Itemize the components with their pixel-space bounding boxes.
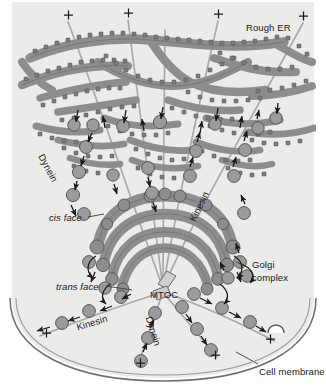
label-cis-face: cis face [49, 212, 82, 223]
label-cell-membrane: Cell membrane [259, 366, 325, 377]
vesicle [87, 119, 99, 131]
label-golgi-line1: Golgi [252, 259, 275, 270]
vesicle [72, 165, 85, 178]
vesicle [238, 207, 251, 220]
vesicle [216, 302, 229, 315]
vesicle [80, 141, 93, 154]
vesicle [56, 317, 69, 330]
vesicle [244, 316, 257, 329]
vesicle [228, 170, 241, 183]
vesicle [68, 119, 80, 131]
label-rough-er: Rough ER [246, 22, 291, 33]
vesicle [142, 162, 155, 175]
label-golgi-line2: complex [252, 272, 288, 283]
vesicle [270, 112, 282, 124]
diagram-canvas [0, 0, 326, 390]
vesicle [107, 169, 119, 181]
vesicle [188, 288, 201, 301]
vesicle [117, 120, 130, 133]
cell-transport-diagram: Rough ER Dynein Kinesin cis face trans f… [0, 0, 326, 390]
vesicle [146, 187, 159, 200]
vesicle [252, 122, 264, 134]
vesicle [222, 272, 234, 284]
label-trans-face: trans face [56, 281, 99, 292]
label-mtoc: MTOC [150, 289, 178, 300]
vesicle [184, 170, 197, 183]
vesicle [239, 144, 252, 157]
vesicle [191, 323, 204, 336]
vesicle [190, 145, 203, 158]
vesicle [153, 115, 166, 128]
vesicle [176, 301, 189, 314]
vesicle [66, 188, 79, 201]
vesicle [209, 118, 221, 130]
